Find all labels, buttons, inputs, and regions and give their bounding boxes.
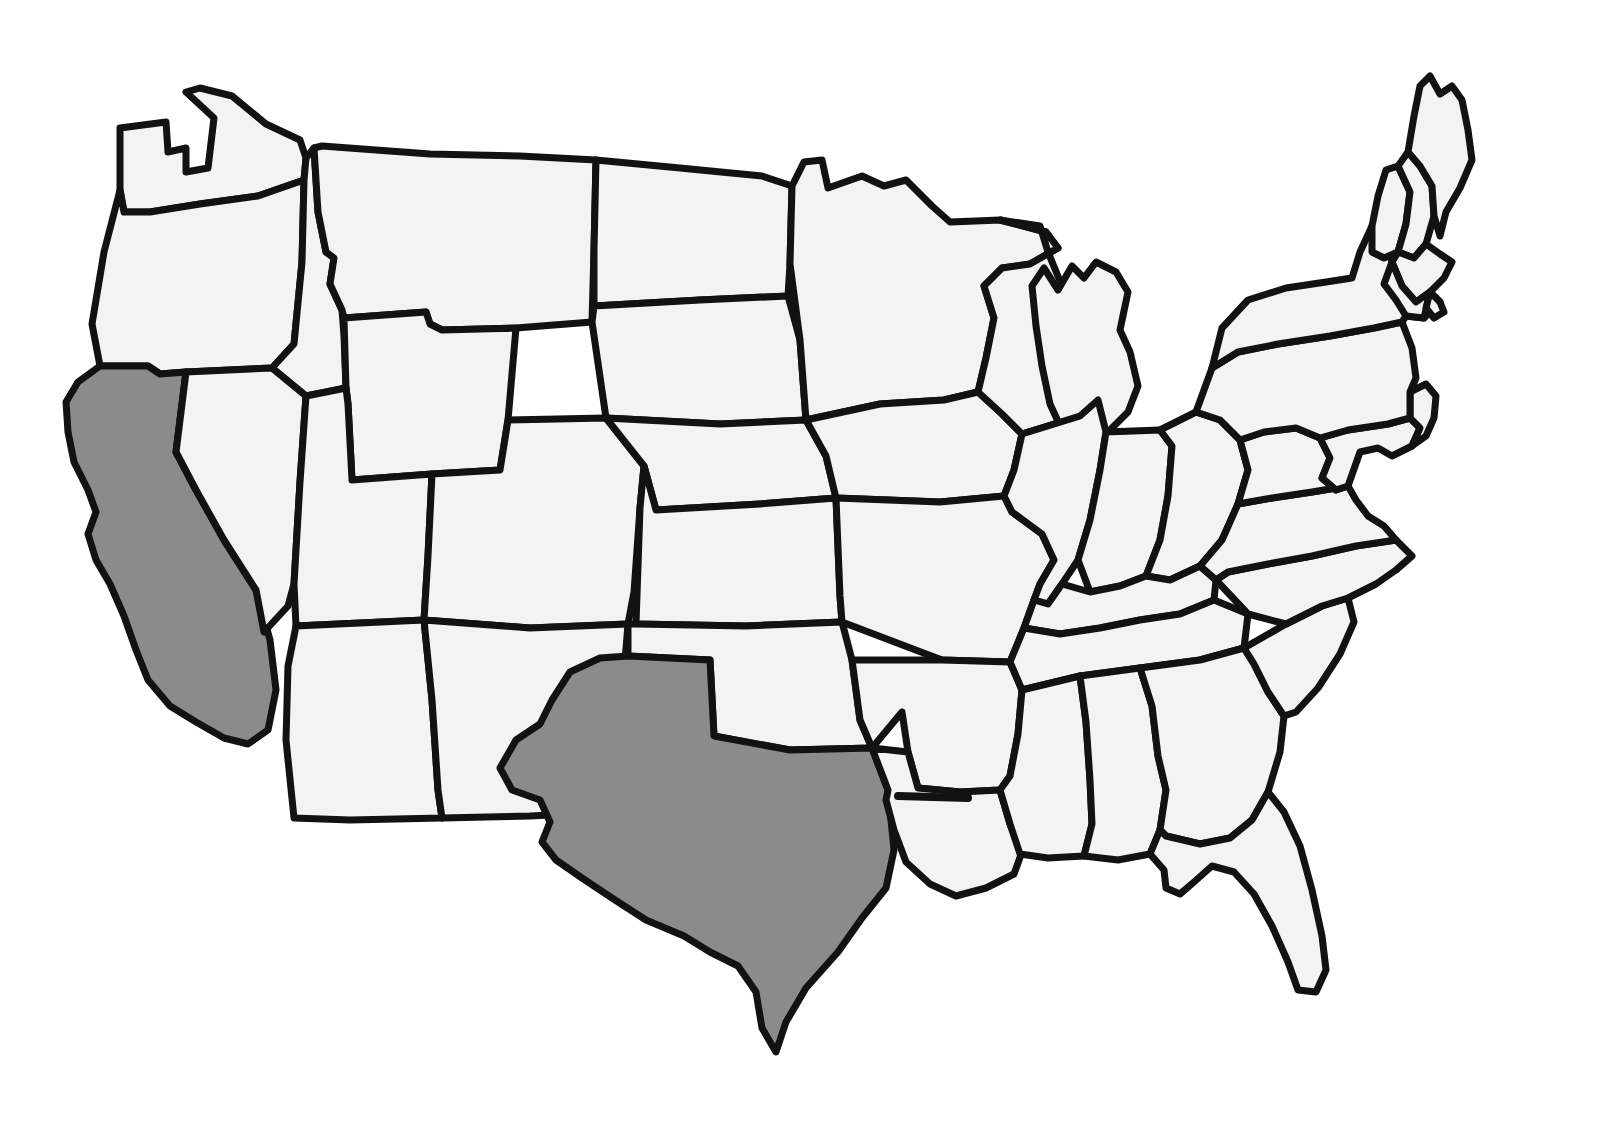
us-states-map: Washington Oregon California Idaho Nevad… xyxy=(0,0,1621,1138)
state-rhode-island[interactable]: Rhode Island xyxy=(1426,292,1444,318)
state-south-dakota[interactable]: South Dakota xyxy=(592,296,806,424)
state-montana[interactable]: Montana xyxy=(314,146,596,330)
us-map-canvas: United States Map Hand-drawn outline map… xyxy=(0,0,1621,1138)
state-north-dakota[interactable]: North Dakota xyxy=(594,160,792,306)
state-wyoming[interactable]: Wyoming xyxy=(344,312,516,480)
state-oregon[interactable]: Oregon xyxy=(92,180,304,374)
state-new-jersey[interactable]: New Jersey xyxy=(1410,384,1436,446)
state-arizona[interactable]: Arizona xyxy=(286,620,442,820)
stray-border-stroke xyxy=(898,796,968,798)
